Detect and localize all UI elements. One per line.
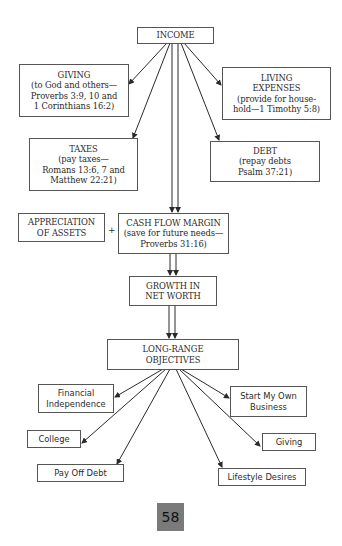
node-title: EXPENSES xyxy=(253,83,301,94)
plus-sign: + xyxy=(108,225,116,235)
node-text: Proverbs 31:16) xyxy=(140,239,207,250)
objective-financial-independence: Financial Independence xyxy=(38,384,114,413)
living-expenses-node: LIVING EXPENSES (provide for house- hold… xyxy=(222,67,331,120)
appreciation-of-assets-node: APPRECIATION OF ASSETS xyxy=(18,213,105,242)
objective-college: College xyxy=(27,430,81,448)
giving-allocation-node: GIVING (to God and others— Proverbs 3:9,… xyxy=(19,64,129,117)
objective-label: Lifestyle Desires xyxy=(228,472,297,483)
node-text: (repay debts xyxy=(239,156,291,167)
objective-start-my-own-business: Start My Own Business xyxy=(230,386,307,417)
node-title: LIVING xyxy=(261,73,293,84)
growth-in-net-worth-node: GROWTH IN NET WORTH xyxy=(129,276,217,306)
objective-label: Pay Off Debt xyxy=(54,468,107,479)
income-label: INCOME xyxy=(157,30,195,41)
objective-label: Financial xyxy=(58,388,95,399)
node-text: Matthew 22:21) xyxy=(50,175,116,186)
debt-node: DEBT (repay debts Psalm 37:21) xyxy=(210,141,320,182)
node-title: NET WORTH xyxy=(145,291,200,302)
node-title: TAXES xyxy=(69,144,98,155)
cash-flow-margin-node: CASH FLOW MARGIN (save for future needs—… xyxy=(118,213,229,254)
node-text: (to God and others— xyxy=(31,80,117,91)
node-title: GROWTH IN xyxy=(146,281,200,292)
node-title: CASH FLOW MARGIN xyxy=(126,218,220,229)
node-text: Romans 13:6, 7 and xyxy=(42,165,125,176)
node-text: (provide for house- xyxy=(237,94,316,105)
node-title: LONG-RANGE xyxy=(143,344,204,355)
objective-label: Start My Own xyxy=(240,391,297,402)
node-text: Proverbs 3:9, 10 and xyxy=(31,91,118,102)
node-title: GIVING xyxy=(58,70,91,81)
long-range-objectives-node: LONG-RANGE OBJECTIVES xyxy=(107,339,239,370)
node-title: DEBT xyxy=(253,146,277,157)
node-text: 1 Corinthians 16:2) xyxy=(34,101,114,112)
objective-lifestyle-desires: Lifestyle Desires xyxy=(218,468,306,486)
node-text: (save for future needs— xyxy=(124,228,224,239)
objective-label: College xyxy=(38,434,69,445)
objective-pay-off-debt: Pay Off Debt xyxy=(37,464,124,482)
node-text: Psalm 37:21) xyxy=(238,167,292,178)
node-text: (pay taxes— xyxy=(58,154,109,165)
node-title: APPRECIATION xyxy=(28,217,95,228)
objective-label: Giving xyxy=(276,437,303,448)
node-title: OF ASSETS xyxy=(37,228,86,239)
taxes-node: TAXES (pay taxes— Romans 13:6, 7 and Mat… xyxy=(29,138,138,191)
objective-label: Independence xyxy=(46,399,106,410)
flow-diagram: INCOME GIVING (to God and others— Prover… xyxy=(0,0,342,546)
page-number-badge: 58 xyxy=(157,503,184,531)
income-node: INCOME xyxy=(137,27,214,44)
objective-giving: Giving xyxy=(262,433,316,451)
objective-label: Business xyxy=(250,402,287,413)
node-title: OBJECTIVES xyxy=(146,355,201,366)
node-text: hold—1 Timothy 5:8) xyxy=(233,104,320,115)
